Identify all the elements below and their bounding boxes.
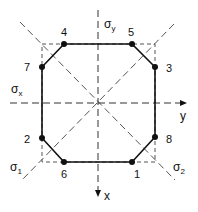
- point-label-3: 3: [166, 62, 172, 74]
- sigma-2-label: σ2: [173, 160, 185, 176]
- point-label-2: 2: [24, 133, 30, 145]
- yield-surface-diagram: 4 5 7 3 2 8 6 1 σy σx σ1 σ2 y x: [0, 0, 198, 212]
- point-label-6: 6: [61, 168, 67, 180]
- vertex-point-8: [152, 134, 158, 140]
- vertex-point-5: [129, 41, 135, 47]
- sigma-y-label: σy: [104, 17, 115, 33]
- point-label-7: 7: [24, 61, 30, 73]
- sigma-1-label: σ1: [10, 160, 22, 176]
- point-label-1: 1: [134, 168, 140, 180]
- x-axis-label: x: [104, 189, 110, 203]
- y-axis-label: y: [180, 109, 186, 123]
- vertex-point-4: [61, 41, 67, 47]
- point-label-8: 8: [166, 133, 172, 145]
- sigma-x-label: σx: [11, 82, 22, 98]
- vertex-point-3: [152, 64, 158, 70]
- vertex-point-6: [61, 159, 67, 165]
- vertex-point-2: [39, 135, 45, 141]
- vertex-point-1: [129, 159, 135, 165]
- point-label-4: 4: [61, 26, 67, 38]
- point-label-5: 5: [128, 26, 134, 38]
- vertex-point-7: [39, 64, 45, 70]
